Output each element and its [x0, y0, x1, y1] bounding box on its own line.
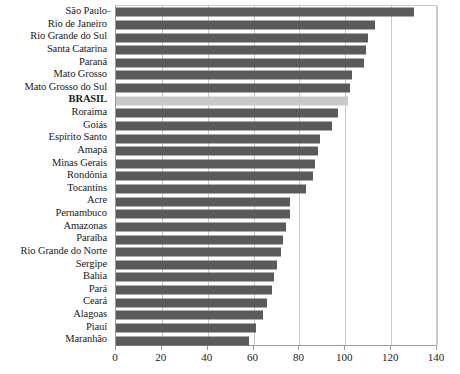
y-axis-tick-row: Rio de Janeiro [0, 18, 111, 31]
bar-alagoas [116, 311, 263, 320]
y-axis-tick-row: Goiás [0, 119, 111, 132]
y-axis-label-santa-catarina: Santa Catarina [47, 44, 107, 55]
bar-rondônia [116, 172, 313, 181]
bar-row [116, 94, 436, 107]
y-axis-label-paraná: Paraná [79, 57, 107, 68]
y-axis-tick-row: Tocantins [0, 182, 111, 195]
y-axis-label-rio-grande-do-norte: Rio Grande do Norte [21, 246, 107, 257]
bar-maranhão [116, 336, 249, 345]
bar-amazonas [116, 222, 286, 231]
y-axis-label-pará: Pará [89, 284, 107, 295]
y-axis-label-rondônia: Rondônia [67, 170, 107, 181]
y-axis-label-ceará: Ceará [83, 296, 107, 307]
bar-row [116, 246, 436, 259]
bar-paraíba [116, 235, 283, 244]
x-axis-label-80: 80 [293, 351, 304, 364]
bar-goiás [116, 121, 332, 130]
bar-row [116, 170, 436, 183]
y-axis-tick-row: Mato Grosso [0, 68, 111, 81]
bar-row [116, 158, 436, 171]
y-axis-tick-row: Amapá [0, 144, 111, 157]
y-axis-label-rio-grande-do-sul: Rio Grande do Sul [30, 31, 107, 42]
bar-rio-grande-do-norte [116, 248, 281, 257]
y-axis-label-acre: Acre [87, 195, 107, 206]
bar-roraima [116, 109, 338, 118]
bar-pernambuco [116, 210, 290, 219]
bar-row [116, 31, 436, 44]
bar-mato-grosso [116, 71, 352, 80]
bar-pará [116, 286, 272, 295]
y-axis-label-são-paulo: São Paulo [66, 6, 107, 17]
y-axis-label-amapá: Amapá [77, 145, 107, 156]
x-axis-label-40: 40 [201, 351, 212, 364]
x-axis-tickmark-80 [298, 346, 299, 350]
bar-tocantins [116, 185, 306, 194]
bar-row [116, 107, 436, 120]
y-axis-label-tocantins: Tocantins [67, 183, 107, 194]
x-axis-labels: 020406080100120140 [0, 351, 460, 371]
y-axis-label-minas-gerais: Minas Gerais [52, 158, 107, 169]
x-axis-tickmark-140 [436, 346, 437, 350]
bar-row [116, 57, 436, 70]
x-axis-label-20: 20 [155, 351, 166, 364]
y-axis-tick-row: Amazonas [0, 220, 111, 233]
bar-row [116, 296, 436, 309]
x-axis-label-60: 60 [247, 351, 258, 364]
bar-row [116, 145, 436, 158]
y-axis-tick-row: BRASIL [0, 93, 111, 106]
bar-row [116, 334, 436, 347]
y-axis-tick-row: Acre [0, 194, 111, 207]
y-axis-tick-row: Rio Grande do Norte [0, 245, 111, 258]
y-axis-label-mato-grosso-do-sul: Mato Grosso do Sul [25, 82, 108, 93]
y-axis-tick-row: Paraná [0, 56, 111, 69]
bar-row [116, 309, 436, 322]
y-axis-label-maranhão: Maranhão [65, 334, 107, 345]
y-axis-label-roraima: Roraima [72, 107, 107, 118]
y-axis-tick-row: Mato Grosso do Sul [0, 81, 111, 94]
y-axis-label-piauí: Piauí [86, 322, 107, 333]
y-axis-tick-row: São Paulo [0, 5, 111, 18]
bar-row [116, 82, 436, 95]
bar-row [116, 208, 436, 221]
bar-acre [116, 197, 290, 206]
y-axis-tick-row: Piauí [0, 321, 111, 334]
y-axis-label-goiás: Goiás [83, 120, 107, 131]
bar-espírito-santo [116, 134, 320, 143]
bar-row [116, 271, 436, 284]
bar-piauí [116, 323, 256, 332]
bar-row [116, 6, 436, 19]
bar-row [116, 259, 436, 272]
bar-rio-de-janeiro [116, 20, 375, 29]
bar-bahia [116, 273, 274, 282]
bar-row [116, 322, 436, 335]
bar-row [116, 44, 436, 57]
y-axis-tick-row: Espírito Santo [0, 131, 111, 144]
bar-minas-gerais [116, 159, 315, 168]
x-axis-tickmark-20 [161, 346, 162, 350]
bar-row [116, 132, 436, 145]
y-axis-tick-row: Alagoas [0, 308, 111, 321]
y-axis-tick-row: Roraima [0, 106, 111, 119]
bar-row [116, 233, 436, 246]
x-axis-tickmark-40 [207, 346, 208, 350]
y-axis-tick-row: Pará [0, 283, 111, 296]
bar-ceará [116, 298, 267, 307]
bar-são-paulo [116, 8, 414, 17]
y-axis-tick-row: Rio Grande do Sul [0, 30, 111, 43]
y-axis-label-bahia: Bahia [83, 271, 107, 282]
x-axis-tickmark-0 [115, 346, 116, 350]
y-axis-tick-row: Pernambuco [0, 207, 111, 220]
bar-rio-grande-do-sul [116, 33, 368, 42]
bar-row [116, 120, 436, 133]
x-axis-label-140: 140 [428, 351, 445, 364]
x-axis-tickmark-120 [390, 346, 391, 350]
y-axis-tick-row: Ceará [0, 295, 111, 308]
y-axis-tick-row: Bahia [0, 270, 111, 283]
bar-row [116, 195, 436, 208]
y-axis-label-rio-de-janeiro: Rio de Janeiro [48, 19, 107, 30]
x-axis-label-120: 120 [382, 351, 399, 364]
bar-rows [116, 6, 436, 345]
x-axis-label-0: 0 [112, 351, 118, 364]
y-axis-tick-row: Sergipe [0, 258, 111, 271]
plot-area [115, 5, 437, 346]
